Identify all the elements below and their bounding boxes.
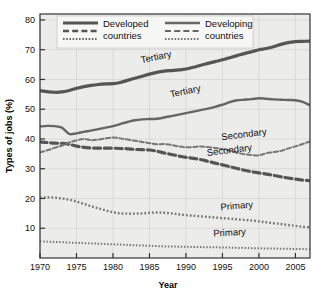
x-tick-label: 1975 bbox=[66, 262, 86, 272]
legend-label-developing-line1: Developing bbox=[205, 18, 253, 29]
y-tick-label: 80 bbox=[25, 15, 35, 25]
y-tick-label: 10 bbox=[25, 223, 35, 233]
chart-figure: TertiaryTertiarySecondarySecondaryPrimar… bbox=[0, 0, 318, 293]
x-tick-label: 1970 bbox=[30, 262, 50, 272]
chart-legend: Developed countries Developing countries bbox=[57, 16, 253, 48]
x-tick-label: 1990 bbox=[176, 262, 196, 272]
y-tick-label: 20 bbox=[25, 194, 35, 204]
jobs-line-chart: TertiaryTertiarySecondarySecondaryPrimar… bbox=[0, 0, 318, 293]
y-tick-label: 60 bbox=[25, 75, 35, 85]
legend-label-developed-line2: countries bbox=[103, 30, 142, 41]
x-tick-label: 1980 bbox=[103, 262, 123, 272]
x-tick-label: 2005 bbox=[285, 262, 305, 272]
legend-label-developed-line1: Developed bbox=[103, 18, 148, 29]
x-tick-label: 1995 bbox=[212, 262, 232, 272]
y-tick-label: 40 bbox=[25, 134, 35, 144]
y-axis-title: Types of jobs (%) bbox=[4, 99, 14, 173]
x-tick-label: 1985 bbox=[139, 262, 159, 272]
x-tick-label: 2000 bbox=[249, 262, 269, 272]
plot-background bbox=[40, 14, 310, 258]
series-annotation-primary: Primary bbox=[213, 226, 247, 239]
y-tick-label: 50 bbox=[25, 104, 35, 114]
y-tick-label: 70 bbox=[25, 45, 35, 55]
x-axis-title: Year bbox=[158, 280, 178, 290]
legend-label-developing-line2: countries bbox=[205, 30, 244, 41]
y-tick-label: 30 bbox=[25, 164, 35, 174]
